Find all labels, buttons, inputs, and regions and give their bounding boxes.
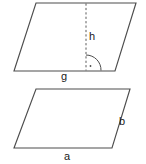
base-label-g: g (61, 71, 67, 82)
upper-parallelogram-outline (14, 3, 136, 71)
height-label-h: h (89, 31, 95, 42)
right-angle-arc-icon (86, 55, 101, 71)
geometry-figure: h g b a (0, 0, 146, 164)
base-label-a: a (64, 151, 70, 162)
right-angle-dot-icon (90, 65, 92, 67)
lower-parallelogram-outline (14, 89, 130, 148)
side-label-b: b (119, 116, 125, 127)
geometry-canvas (0, 0, 146, 164)
